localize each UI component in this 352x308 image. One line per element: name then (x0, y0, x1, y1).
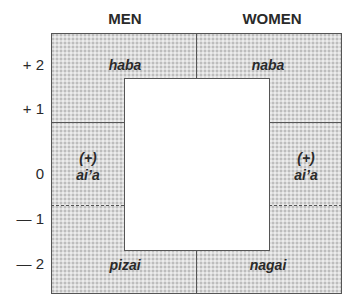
term-men-plus2: haba (90, 57, 160, 74)
term-women-0-prefix: (+) (276, 150, 336, 167)
top-divider (196, 33, 197, 78)
tick-minus-2: — 2 (4, 255, 44, 272)
tick-zero: 0 (4, 165, 44, 182)
term-women-minus2: nagai (233, 257, 303, 274)
term-men-0-prefix: (+) (58, 150, 118, 167)
empty-center (124, 78, 270, 251)
column-header-women: WOMEN (222, 10, 322, 27)
left-dash-minus1 (51, 205, 124, 206)
tick-plus-2: + 2 (4, 56, 44, 73)
term-men-minus2: pizai (90, 257, 160, 274)
column-header-men: MEN (90, 10, 160, 27)
term-women-0: ai’a (276, 167, 336, 184)
bottom-divider (196, 250, 197, 294)
left-line-plus1 (51, 122, 124, 123)
term-men-0: ai’a (58, 167, 118, 184)
right-dash-minus1 (269, 205, 342, 206)
tick-minus-1: — 1 (4, 210, 44, 227)
term-women-plus2: naba (233, 57, 303, 74)
right-line-plus1 (269, 122, 342, 123)
tick-plus-1: + 1 (4, 100, 44, 117)
